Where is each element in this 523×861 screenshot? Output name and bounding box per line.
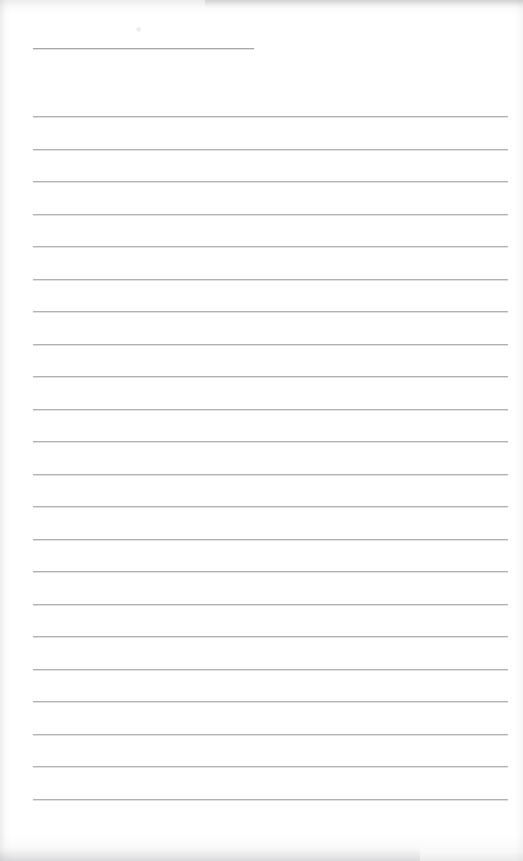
ruled-line [33, 734, 508, 735]
ruled-line [33, 279, 508, 280]
scan-edge-artifact-left [0, 0, 11, 861]
lined-paper-page: Blank ruled notepad page Title or date w… [0, 0, 523, 861]
ruled-line [33, 669, 508, 670]
ruled-line [33, 409, 508, 410]
ruled-line [33, 311, 508, 312]
scan-edge-artifact-top [0, 0, 523, 14]
ruled-line [33, 571, 508, 572]
ruled-line [33, 474, 508, 475]
title-rule-line: Title or date write-on line [33, 48, 254, 49]
scan-edge-artifact-bottom [0, 835, 523, 861]
ruled-line [33, 636, 508, 637]
ruled-line [33, 766, 508, 767]
ruled-line [33, 799, 508, 800]
scan-edge-artifact-right [515, 0, 523, 861]
ruled-line [33, 604, 508, 605]
ruled-line [33, 116, 508, 117]
ruled-line [33, 441, 508, 442]
ruled-line [33, 214, 508, 215]
title-rule-label: Title or date write-on line [33, 49, 34, 50]
ruled-line [33, 181, 508, 182]
ruled-line [33, 149, 508, 150]
ruled-line [33, 376, 508, 377]
ruled-line [33, 506, 508, 507]
ruled-line [33, 701, 508, 702]
ruled-line [33, 539, 508, 540]
ruled-line [33, 344, 508, 345]
scan-speck-artifact [135, 26, 142, 33]
ruled-line [33, 246, 508, 247]
page-accessible-label: Blank ruled notepad page [0, 0, 1, 1]
